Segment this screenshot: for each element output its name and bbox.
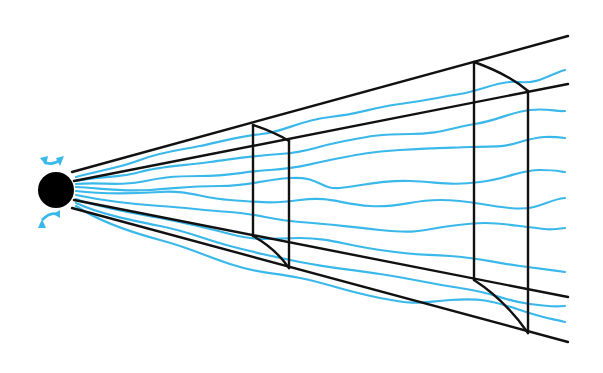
near-section — [253, 125, 289, 268]
radiation-spreading-diagram — [0, 0, 603, 373]
rotation-arrow-bottom-icon — [42, 214, 56, 220]
wave-line-8 — [76, 203, 565, 307]
wave-line-2 — [76, 109, 565, 181]
wave-line-7 — [76, 199, 565, 272]
radiation-source — [38, 156, 74, 228]
wave-line-6 — [76, 195, 565, 232]
frustum-frame — [72, 36, 568, 342]
far-section-top-edge — [474, 62, 528, 91]
wave-line-3 — [76, 137, 565, 184]
arrowhead-bottom-left — [38, 219, 46, 228]
near-section-top-edge — [253, 125, 289, 141]
ray-top-inner — [74, 84, 568, 181]
wave-lines — [76, 70, 565, 322]
arrowhead-bottom-right — [53, 210, 60, 218]
ray-top-outer — [72, 36, 568, 172]
ray-bottom-outer — [72, 208, 568, 342]
source-sphere — [38, 172, 74, 208]
